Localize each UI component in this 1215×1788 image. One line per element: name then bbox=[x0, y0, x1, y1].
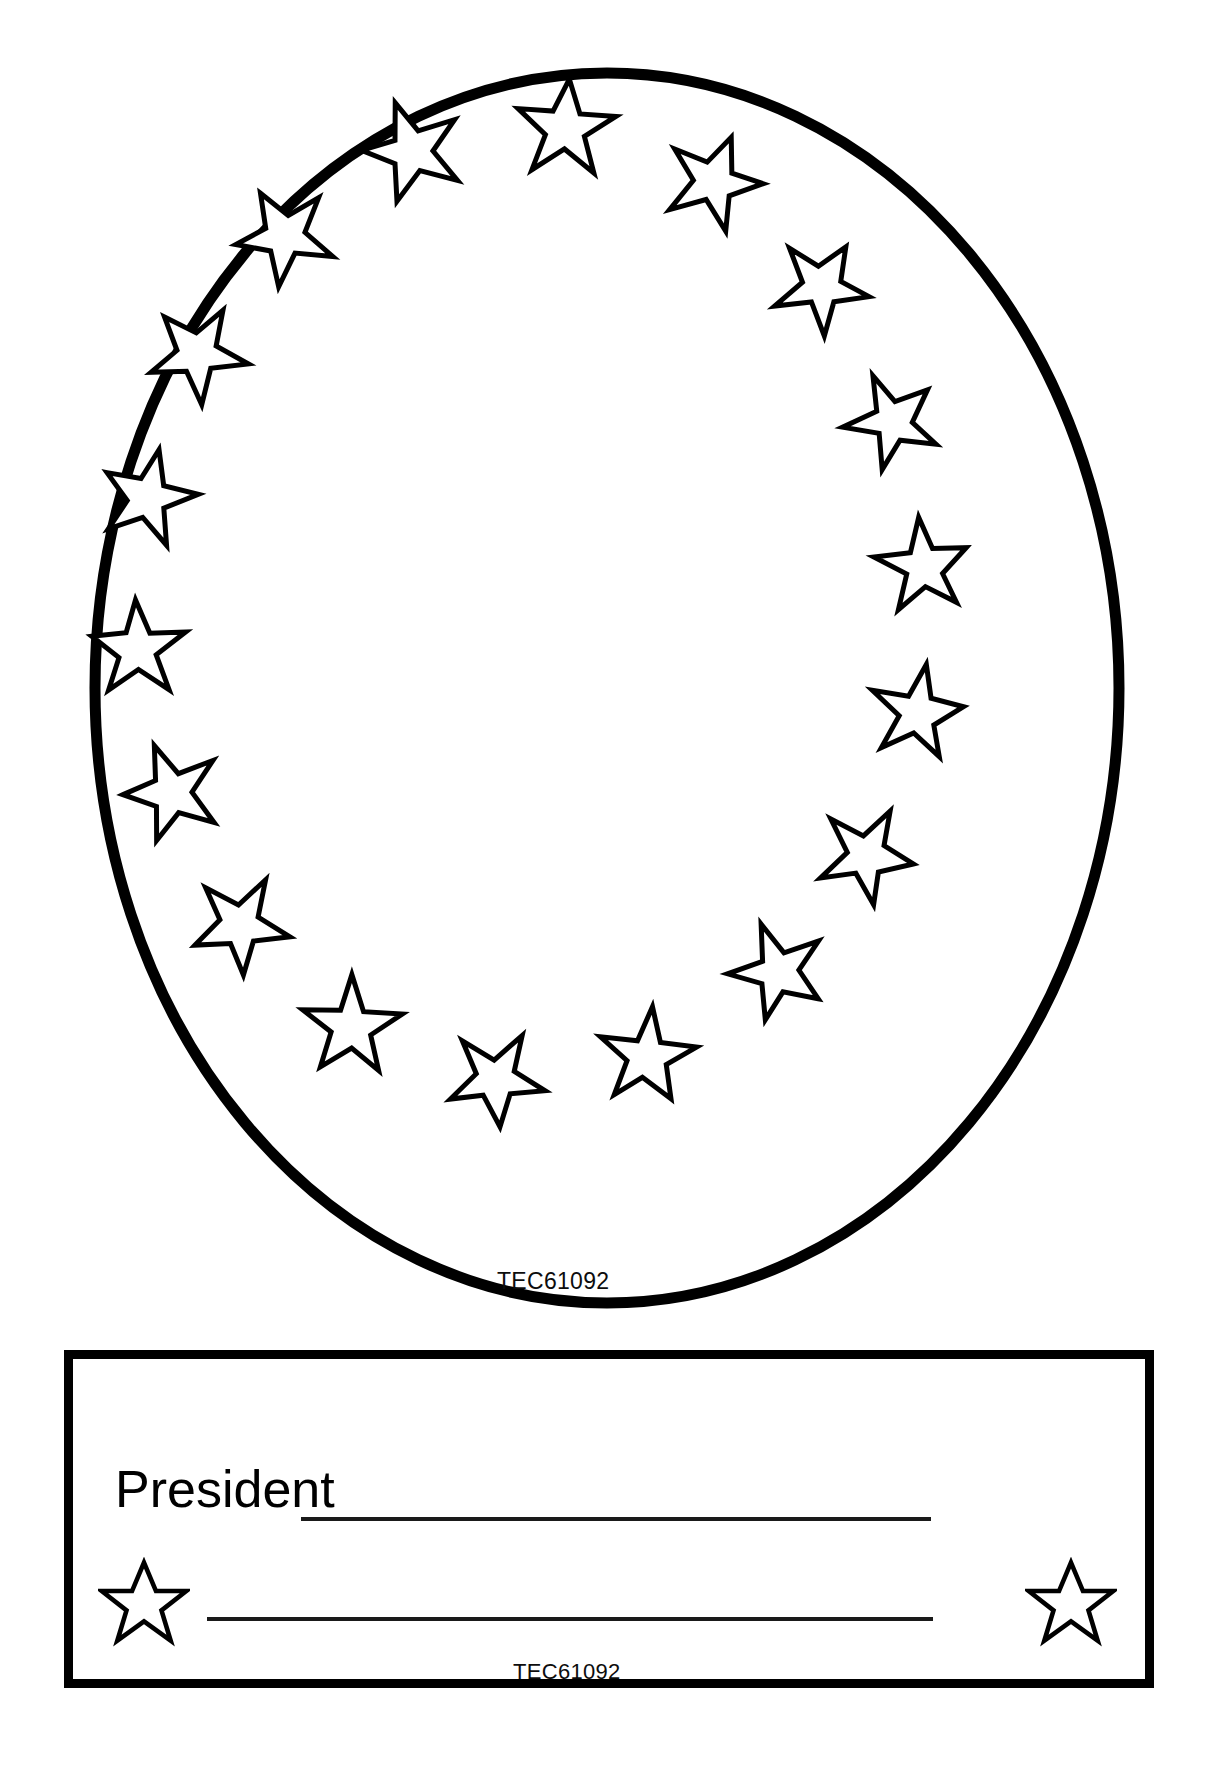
plate-star-right bbox=[1025, 1557, 1117, 1649]
star-icon bbox=[282, 964, 415, 1096]
printable-page: TEC61092 President TEC61092 bbox=[0, 0, 1215, 1788]
star-icon bbox=[220, 169, 348, 295]
star-icon bbox=[130, 285, 261, 416]
president-name-line[interactable] bbox=[301, 1517, 931, 1521]
star-icon bbox=[718, 909, 845, 1038]
star-icon bbox=[867, 505, 985, 626]
nameplate-inner: President TEC61092 bbox=[73, 1359, 1145, 1679]
oval-product-code: TEC61092 bbox=[497, 1268, 609, 1295]
star-icon bbox=[176, 864, 298, 988]
president-nameplate: President TEC61092 bbox=[64, 1350, 1154, 1688]
plate-star-left bbox=[98, 1557, 190, 1649]
star-icon bbox=[831, 355, 959, 483]
oval-star-frame-svg bbox=[0, 0, 1215, 1330]
oval-outline bbox=[95, 73, 1119, 1303]
star-icon bbox=[586, 998, 713, 1123]
star-ring bbox=[79, 76, 985, 1131]
star-icon bbox=[759, 222, 885, 346]
star-icon bbox=[817, 801, 921, 910]
star-icon bbox=[82, 433, 207, 560]
star-icon bbox=[445, 1034, 547, 1131]
star-icon bbox=[121, 743, 215, 841]
star-icon bbox=[514, 76, 618, 176]
signature-line[interactable] bbox=[207, 1617, 933, 1621]
star-icon bbox=[102, 1563, 187, 1641]
president-label: President bbox=[115, 1463, 335, 1515]
nameplate-product-code: TEC61092 bbox=[513, 1659, 621, 1685]
star-icon bbox=[653, 119, 775, 238]
star-icon bbox=[870, 660, 970, 764]
oval-frame-region: TEC61092 bbox=[0, 0, 1215, 1330]
star-icon bbox=[1029, 1563, 1114, 1641]
